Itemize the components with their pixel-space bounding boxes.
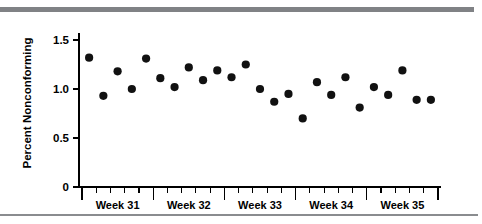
data-point	[227, 73, 235, 81]
data-point	[170, 83, 178, 91]
x-axis-group-label: Week 35	[380, 199, 424, 211]
y-axis-tick-label: 1.0	[53, 83, 69, 95]
data-point	[398, 66, 406, 74]
x-axis-group-label: Week 34	[309, 199, 354, 211]
y-axis-title: Percent Nonconforming	[21, 38, 33, 169]
figure-container: 00.51.01.5Percent NonconformingWeek 31We…	[0, 0, 482, 224]
data-point	[128, 85, 136, 93]
data-point	[142, 55, 150, 63]
data-point	[156, 74, 164, 82]
y-axis-tick-label: 0.5	[53, 132, 70, 144]
data-point	[270, 98, 278, 106]
data-point	[114, 67, 122, 75]
data-point	[242, 60, 250, 68]
data-point	[356, 104, 364, 112]
data-point	[427, 96, 435, 104]
data-point	[185, 63, 193, 71]
data-point	[99, 92, 107, 100]
data-point	[384, 91, 392, 99]
data-point	[299, 114, 307, 122]
data-point	[413, 96, 421, 104]
x-axis-group-label: Week 31	[96, 199, 140, 211]
data-point	[327, 91, 335, 99]
x-axis-group-label: Week 33	[238, 199, 282, 211]
y-axis-tick-label: 0	[63, 181, 69, 193]
data-point	[213, 66, 221, 74]
y-axis-tick-label: 1.5	[53, 34, 70, 46]
data-point	[85, 54, 93, 62]
data-point	[370, 83, 378, 91]
data-point	[199, 76, 207, 84]
data-point	[284, 90, 292, 98]
data-point	[341, 73, 349, 81]
x-axis-group-label: Week 32	[167, 199, 211, 211]
data-point	[256, 85, 264, 93]
chart-canvas: 00.51.01.5Percent NonconformingWeek 31We…	[0, 0, 482, 224]
data-point	[313, 78, 321, 86]
